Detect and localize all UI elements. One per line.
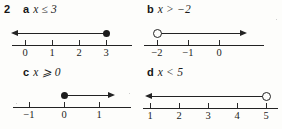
part-a-heading: ax ≤ 3 — [23, 3, 57, 15]
part-b-heading: bx > −2 — [147, 3, 191, 15]
part-b: bx > −2 −2 −1 0 — [141, 0, 282, 64]
part-b-expression: x > −2 — [158, 3, 191, 15]
part-a-arrowhead-left-icon — [11, 30, 18, 36]
part-b-open-endpoint — [153, 29, 162, 38]
part-b-tick-neg2 — [157, 40, 158, 45]
part-c-arrowhead-right-icon — [108, 92, 115, 98]
part-d-expression: x < 5 — [158, 66, 183, 78]
part-a-closed-endpoint — [103, 30, 110, 37]
part-d-tick-3 — [208, 103, 209, 108]
part-d-arrowhead-left-icon — [145, 93, 152, 99]
part-a-ticklabel-0: 0 — [16, 47, 34, 58]
part-b-ticklabel-0: 0 — [210, 47, 228, 58]
part-d-ticklabel-4: 4 — [228, 110, 246, 121]
part-c-ticklabel-0: 0 — [55, 109, 73, 120]
part-b-ticklabel-neg2: −2 — [148, 47, 166, 58]
part-c-tick-1 — [99, 102, 100, 107]
scan-speckle — [16, 103, 17, 104]
part-a-tick-1 — [52, 40, 53, 45]
part-d-tick-2 — [179, 103, 180, 108]
part-a-expression: x ≤ 3 — [33, 3, 57, 15]
part-d-solution-ray — [152, 96, 266, 97]
part-b-axis — [144, 45, 264, 46]
part-c-solution-ray — [64, 95, 110, 96]
part-c: cx ⩾ 0 −1 0 1 — [0, 64, 141, 129]
part-a-tick-2 — [79, 40, 80, 45]
part-d-tick-1 — [150, 103, 151, 108]
worksheet-page: 2 ax ≤ 3 0 1 2 3 bx > −2 — [0, 0, 282, 129]
part-d-tick-5 — [266, 103, 267, 108]
part-a-ticklabel-1: 1 — [43, 47, 61, 58]
part-c-tick-neg1 — [29, 102, 30, 107]
scan-speckle — [276, 19, 277, 20]
part-b-tick-neg1 — [188, 40, 189, 45]
part-d-heading: dx < 5 — [147, 66, 183, 78]
part-c-axis — [13, 107, 131, 108]
part-c-expression: x ⩾ 0 — [33, 66, 61, 78]
part-c-letter: c — [23, 66, 29, 78]
part-b-tick-0 — [219, 40, 220, 45]
part-a-letter: a — [23, 3, 29, 15]
part-a-ticklabel-2: 2 — [70, 47, 88, 58]
part-c-closed-endpoint — [61, 92, 68, 99]
part-a-tick-3 — [106, 40, 107, 45]
part-c-tick-0 — [64, 102, 65, 107]
part-d-axis — [143, 108, 278, 109]
part-c-ticklabel-1: 1 — [90, 109, 108, 120]
part-d-ticklabel-3: 3 — [199, 110, 217, 121]
part-a-tick-0 — [25, 40, 26, 45]
part-a-ticklabel-3: 3 — [97, 47, 115, 58]
part-c-ticklabel-neg1: −1 — [20, 109, 38, 120]
part-b-ticklabel-neg1: −1 — [179, 47, 197, 58]
part-a-axis — [12, 45, 132, 46]
part-a: ax ≤ 3 0 1 2 3 — [0, 0, 141, 64]
part-d-ticklabel-5: 5 — [257, 110, 275, 121]
part-d-ticklabel-2: 2 — [170, 110, 188, 121]
scan-speckle — [129, 93, 130, 94]
part-b-arrowhead-right-icon — [240, 30, 247, 36]
part-b-letter: b — [147, 3, 154, 15]
part-b-solution-ray — [157, 33, 242, 34]
part-c-heading: cx ⩾ 0 — [23, 66, 61, 78]
part-d-tick-4 — [237, 103, 238, 108]
part-d-open-endpoint — [262, 92, 271, 101]
part-d-letter: d — [147, 66, 154, 78]
part-a-solution-ray — [18, 33, 106, 34]
part-d: dx < 5 1 2 3 4 5 — [141, 64, 282, 129]
part-d-ticklabel-1: 1 — [141, 110, 159, 121]
